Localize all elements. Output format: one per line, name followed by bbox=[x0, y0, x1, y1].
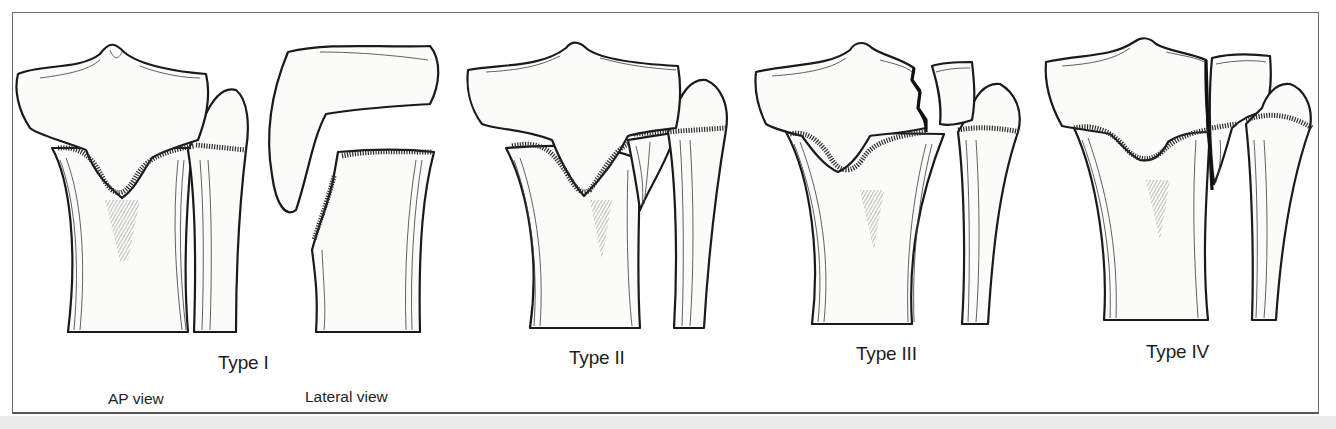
type-1-lateral-view bbox=[269, 46, 438, 332]
label-type-2: Type II bbox=[569, 347, 625, 369]
type-3-illustration bbox=[755, 43, 1020, 324]
type-1-ap-view bbox=[17, 45, 248, 332]
label-ap-view: AP view bbox=[108, 390, 164, 408]
label-type-1: Type I bbox=[218, 352, 269, 374]
label-type-3: Type III bbox=[856, 343, 917, 365]
label-lateral-view: Lateral view bbox=[305, 388, 388, 406]
fracture-illustrations bbox=[0, 0, 1336, 429]
label-type-4: Type IV bbox=[1146, 341, 1209, 363]
type-2-illustration bbox=[468, 43, 727, 328]
type-4-illustration bbox=[1046, 38, 1312, 320]
